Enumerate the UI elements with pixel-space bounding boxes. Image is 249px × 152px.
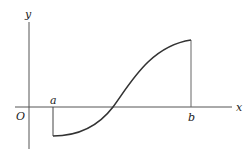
function-curve	[53, 40, 191, 136]
origin-label: O	[16, 110, 25, 123]
a-label: a	[50, 94, 57, 107]
b-label: b	[188, 111, 195, 124]
function-graph: y x O a b	[0, 0, 249, 152]
y-axis-label: y	[24, 8, 32, 21]
x-axis-label: x	[236, 101, 243, 114]
